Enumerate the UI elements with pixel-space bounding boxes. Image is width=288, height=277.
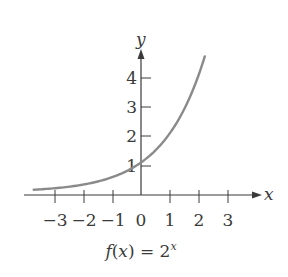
y-ticks — [141, 78, 151, 166]
x-tick-labels: −3 −2 −1 0 1 2 3 — [42, 210, 233, 230]
exponential-curve — [34, 56, 205, 189]
svg-text:−1: −1 — [100, 210, 125, 230]
svg-text:4: 4 — [126, 68, 137, 88]
svg-text:2: 2 — [194, 210, 205, 230]
svg-text:0: 0 — [136, 210, 147, 230]
x-axis-label: x — [264, 184, 274, 204]
svg-text:2: 2 — [126, 126, 137, 146]
x-axis-arrow-icon — [252, 192, 262, 199]
svg-text:3: 3 — [223, 210, 234, 230]
function-caption: f(x) = 2x — [103, 240, 177, 261]
svg-text:1: 1 — [165, 210, 176, 230]
y-axis-label: y — [135, 29, 146, 49]
svg-text:3: 3 — [126, 97, 137, 117]
svg-text:−2: −2 — [71, 210, 96, 230]
svg-text:−3: −3 — [42, 210, 67, 230]
y-axis-arrow-icon — [138, 49, 145, 59]
exponential-graph: x y −3 −2 −1 0 1 2 3 1 2 3 4 f(x) = 2x — [0, 0, 288, 277]
y-tick-labels: 1 2 3 4 — [126, 68, 137, 176]
